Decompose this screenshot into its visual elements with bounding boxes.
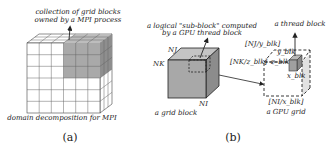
caption-a: (a) (62, 131, 77, 144)
grid-block-label: a grid block (155, 109, 197, 117)
thread-block-label: a thread block (274, 20, 325, 28)
axis-nj-label: NJ (167, 46, 178, 54)
mpi-process-label-line2: owned by a MPI process (35, 16, 122, 24)
axis-nk-label: NK (152, 60, 165, 68)
y-blk-label: y_blk (276, 48, 295, 56)
axis-ni-label: NI (198, 100, 208, 108)
nk-div-label: [NK/z_blk] (230, 58, 268, 66)
domain-decomposition-label: domain decomposition for MPI (7, 114, 117, 122)
gpu-grid-label: a GPU grid (266, 108, 306, 116)
z-blk-label: z_blk (270, 58, 289, 66)
ni-div-label: [NI/x_blk] (268, 98, 303, 106)
subblock-label-line2: by a GPU thread block (162, 29, 242, 37)
nj-div-label: [NJ/y_blk] (245, 40, 280, 48)
mpi-process-label-line1: collection of grid blocks (35, 8, 121, 16)
mpi-domain-cube (27, 28, 112, 113)
caption-b: (b) (225, 131, 241, 144)
diagram-canvas: collection of grid blocks owned by a MPI… (0, 0, 336, 151)
x-blk-label: x_blk (287, 72, 305, 80)
